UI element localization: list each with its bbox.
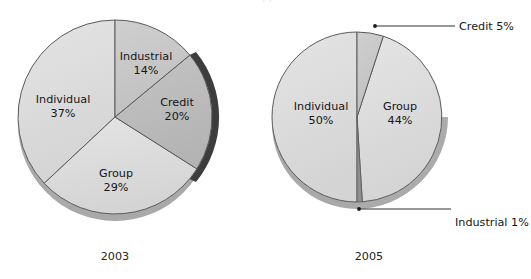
pie-chart-2005: Group 44% Individual 50% Credit 5% Indus… [272, 20, 529, 263]
pie-chart-figure: app [0, 0, 531, 279]
pie-2005-callout-credit-label: Credit 5% [459, 20, 514, 33]
pie-2005-label-group-value: 44% [388, 114, 413, 127]
pie-2005-year-label: 2005 [355, 250, 383, 263]
pie-2005-label-group-name: Group [383, 100, 417, 113]
charts-canvas: Industrial 14% Credit 20% Group 29% Indi… [0, 0, 531, 279]
pie-2003-label-group-value: 29% [104, 181, 129, 194]
pie-2005-callout-industrial: Industrial 1% [357, 207, 529, 229]
pie-2005-callout-industrial-label: Industrial 1% [455, 216, 529, 229]
pie-2003-label-credit-name: Credit [160, 96, 194, 109]
pie-2003-label-credit-value: 20% [165, 110, 190, 123]
pie-2003-label-group-name: Group [99, 167, 133, 180]
pie-2003-year-label: 2003 [101, 250, 129, 263]
pie-chart-2003: Industrial 14% Credit 20% Group 29% Indi… [18, 20, 219, 263]
pie-2003-label-industrial-name: Industrial [120, 50, 172, 63]
pie-2003-label-individual-value: 37% [51, 107, 76, 120]
pie-2005-label-individual-name: Individual [294, 100, 349, 113]
pie-2003-label-individual-name: Individual [36, 93, 91, 106]
pie-2003-label-industrial-value: 14% [134, 64, 159, 77]
pie-2005-callout-credit: Credit 5% [373, 20, 514, 33]
pie-2005-label-individual-value: 50% [309, 114, 334, 127]
